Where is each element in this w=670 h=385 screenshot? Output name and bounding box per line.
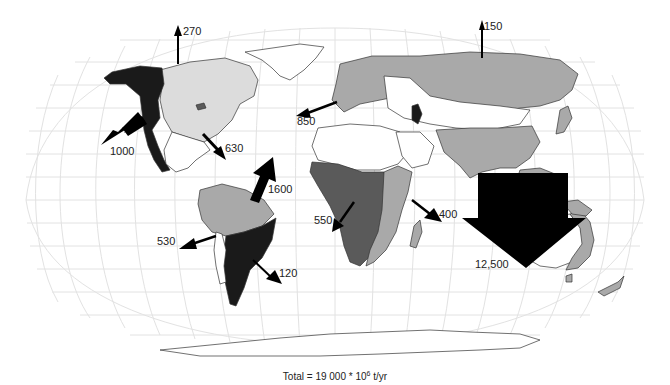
total-caption: Total = 19 000 * 106 t/yr [0,370,670,382]
arabia [396,132,434,168]
arrow-1600 [250,157,276,203]
flux-label-550: 550 [314,215,332,226]
flux-label-1600: 1600 [268,184,292,195]
new-zealand [598,276,624,296]
flux-label-850: 850 [297,116,315,127]
arrow-270 [174,25,182,64]
caption-unit: t/yr [370,371,387,382]
north-america-light [160,58,258,142]
flux-label-1000: 1000 [110,146,134,157]
flux-label-150: 150 [484,21,502,32]
tasmania [566,274,572,282]
antarctica [160,330,540,356]
arrow-530 [179,236,216,249]
flux-label-12500: 12,500 [475,259,509,270]
flux-label-630: 630 [225,143,243,154]
flux-label-120: 120 [279,268,297,279]
arrow-400 [412,200,442,222]
andes [214,232,226,284]
arrow-1000 [101,112,147,145]
flux-label-270: 270 [183,26,201,37]
flux-label-530: 530 [157,236,175,247]
caption-prefix: Total = 19 000 * 10 [283,371,367,382]
world-map [0,0,670,385]
madagascar [410,220,422,248]
flux-label-400: 400 [439,209,457,220]
